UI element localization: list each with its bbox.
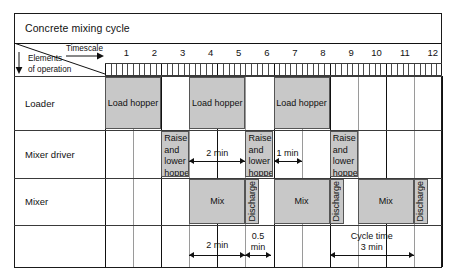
ruler-tick: [425, 64, 426, 75]
ruler-tick: [200, 64, 201, 75]
ruler-tick: [302, 64, 303, 75]
timescale-tick-label: 8: [320, 47, 329, 58]
dim-text: 2 min: [206, 148, 228, 158]
dimension-1min-driver: [274, 161, 302, 162]
activity-bar[interactable]: Raise and lower hopper: [161, 131, 189, 177]
ruler-tick: [436, 64, 437, 75]
dimension-label-2min-footer: 2 min: [206, 240, 228, 251]
ruler-tick: [195, 64, 196, 75]
bar-label: Load hopper: [276, 98, 327, 109]
ruler-tick: [139, 64, 140, 75]
ruler-tick: [347, 64, 348, 75]
activity-bar[interactable]: Discharge: [414, 179, 428, 224]
ruler-tick: [330, 64, 331, 75]
bar-label: Raise and lower hopper: [164, 133, 189, 177]
ruler-tick: [391, 64, 392, 75]
ruler-tick: [274, 64, 275, 75]
multiple-activity-chart: Concrete mixing cycle Timescale Elements…: [0, 0, 459, 273]
ruler-tick: [352, 64, 353, 75]
activity-bar[interactable]: Mix: [358, 179, 414, 224]
activity-bar[interactable]: Load hopper: [105, 77, 161, 129]
ruler-tick: [285, 64, 286, 75]
activity-bar[interactable]: Discharge: [330, 179, 344, 224]
ruler-tick: [296, 64, 297, 75]
row-separator: [14, 178, 442, 179]
ruler-tick: [335, 64, 336, 75]
ruler-tick: [144, 64, 145, 75]
ruler-tick: [172, 64, 173, 75]
ruler-tick: [268, 64, 269, 75]
activity-bar[interactable]: Raise and lower hopper: [330, 131, 358, 177]
bar-label: Raise and lower hopper: [248, 133, 273, 177]
timescale-tick-label: 4: [208, 47, 217, 58]
row-label-loader: Loader: [14, 76, 105, 130]
activity-bar[interactable]: Discharge: [245, 179, 259, 224]
dimension-label-half-min-footer: 0.5min: [251, 231, 266, 252]
timescale-tick-label: 11: [400, 47, 414, 58]
timescale-tick-label: 5: [236, 47, 245, 58]
dimension-label-cycle-time-footer: Cycle time3 min: [351, 231, 393, 252]
activity-bar[interactable]: Mix: [189, 179, 245, 224]
dimension-cycle-time-footer: [330, 255, 414, 256]
row-separator: [14, 76, 442, 77]
ruler-tick: [408, 64, 409, 75]
ruler-tick: [369, 64, 370, 75]
ruler-tick: [178, 64, 179, 75]
ruler-tick: [420, 64, 421, 75]
dim-text: 1 min: [277, 148, 299, 158]
timescale-tick-label: 1: [124, 47, 133, 58]
row-separator: [14, 130, 442, 131]
chart-title-row: Concrete mixing cycle: [14, 13, 442, 43]
ruler-tick: [431, 64, 432, 75]
row-separator: [14, 225, 442, 226]
ruler-tick: [307, 64, 308, 75]
ruler-tick: [156, 64, 157, 75]
ruler-tick: [116, 64, 117, 75]
timescale-number-strip: 123456789101112: [105, 43, 442, 63]
dim-text: Cycle time3 min: [351, 231, 393, 252]
ruler-tick: [234, 64, 235, 75]
ruler-tick: [127, 64, 128, 75]
activity-bar[interactable]: Mix: [274, 179, 330, 224]
bar-label: Load hopper: [192, 98, 243, 109]
bar-label: Discharge: [331, 181, 342, 222]
dimension-2min-driver: [189, 161, 245, 162]
activity-bar[interactable]: Load hopper: [274, 77, 330, 129]
ruler-tick: [122, 64, 123, 75]
ruler-tick: [363, 64, 364, 75]
dim-text: 0.5min: [251, 231, 266, 252]
bar-label: Mix: [295, 196, 309, 207]
ruler-tick: [212, 64, 213, 75]
activity-bar[interactable]: Load hopper: [189, 77, 245, 129]
ruler-tick: [217, 64, 218, 75]
page-title: Concrete mixing cycle: [14, 22, 130, 34]
ruler-tick: [150, 64, 151, 75]
elements-label-line2: of operation: [28, 65, 71, 74]
ruler-tick: [251, 64, 252, 75]
grid-line-minor: [414, 76, 415, 267]
ruler-tick: [313, 64, 314, 75]
bar-label: Load hopper: [108, 98, 159, 109]
ruler-tick: [341, 64, 342, 75]
timescale-tick-label: 9: [348, 47, 357, 58]
ruler-tick: [189, 64, 190, 75]
ruler-tick: [133, 64, 134, 75]
ruler-tick: [380, 64, 381, 75]
ruler-tick: [245, 64, 246, 75]
row-label-mixer-driver: Mixer driver: [14, 130, 105, 178]
ruler-tick: [375, 64, 376, 75]
timescale-tick-label: 2: [152, 47, 161, 58]
ruler-tick: [223, 64, 224, 75]
bar-label: Mix: [379, 196, 393, 207]
timescale-tick-label: 10: [371, 47, 386, 58]
elements-label-line1: Elements: [28, 54, 62, 63]
grid-line-major: [442, 76, 443, 267]
ruler-tick: [167, 64, 168, 75]
bar-label: Raise and lower hopper: [333, 133, 358, 177]
ruler-tick: [257, 64, 258, 75]
ruler-tick: [403, 64, 404, 75]
activity-bar[interactable]: Raise and lower hopper: [245, 131, 273, 177]
timescale-tick-label: 6: [264, 47, 273, 58]
ruler-tick: [318, 64, 319, 75]
timescale-ruler: [105, 63, 442, 76]
